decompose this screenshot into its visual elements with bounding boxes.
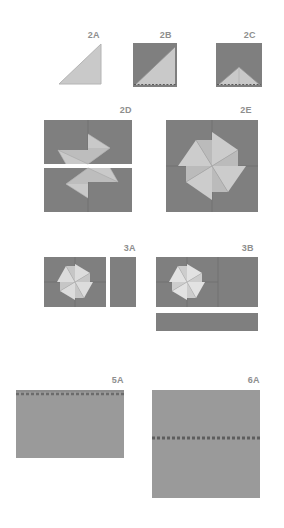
step-label-3B: 3B <box>210 243 254 253</box>
diagram-sheet: 2A 2B 2C <box>0 0 284 528</box>
shape-3A-group <box>44 257 136 307</box>
figure-3B <box>156 257 258 331</box>
step-label-2B: 2B <box>128 30 172 40</box>
shape-3B-group <box>156 257 258 331</box>
step-label-2A: 2A <box>60 30 100 40</box>
shape-3B-strip <box>156 313 258 331</box>
figure-3A <box>44 257 136 307</box>
shape-2D-lower <box>44 168 132 212</box>
shape-3B-pinwheel <box>156 257 258 307</box>
shape-2D-upper <box>44 120 132 164</box>
figure-6A <box>152 390 260 498</box>
step-label-3A: 3A <box>92 243 136 253</box>
shape-2D-two-rectangles <box>44 120 132 212</box>
shape-2E-pinwheel <box>166 120 258 212</box>
figure-2D <box>44 120 132 212</box>
shape-5A-rectangle <box>16 390 124 458</box>
step-label-2D: 2D <box>88 105 132 115</box>
figure-2E <box>166 120 258 212</box>
figure-2A <box>58 43 102 85</box>
figure-2B <box>133 43 177 87</box>
figure-5A <box>16 390 124 458</box>
shape-2A-triangle <box>58 43 102 85</box>
step-label-6A: 6A <box>216 375 260 385</box>
shape-3A-strip <box>110 257 136 307</box>
step-label-2E: 2E <box>208 105 252 115</box>
shape-2B-square-fold <box>133 43 177 87</box>
step-label-2C: 2C <box>212 30 256 40</box>
shape-2C-square-notch <box>216 43 262 87</box>
shape-6A-square <box>152 390 260 498</box>
figure-2C <box>216 43 262 87</box>
step-label-5A: 5A <box>80 375 124 385</box>
shape-3A-pinwheel <box>44 257 106 307</box>
